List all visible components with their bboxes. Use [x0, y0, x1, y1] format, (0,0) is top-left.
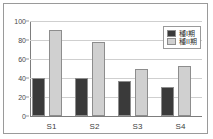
y-axis-tick-mark [26, 116, 29, 117]
y-axis-tick-label: 100 [14, 18, 26, 25]
x-axis-category-label: S3 [116, 123, 159, 131]
bar-series-2[interactable] [49, 30, 62, 116]
bar-series-2[interactable] [92, 42, 105, 116]
x-axis-category-label: S4 [159, 123, 202, 131]
y-axis-tick-mark [26, 78, 29, 79]
y-axis-tick-mark [26, 97, 29, 98]
y-axis-tick-mark [26, 40, 29, 41]
bar-group: S2 [73, 21, 116, 116]
legend-swatch-icon [167, 30, 176, 37]
y-axis-tick-mark [26, 59, 29, 60]
legend-item[interactable]: 種II期 [167, 38, 197, 45]
legend-item[interactable]: 種I期 [167, 30, 197, 37]
bar-series-2[interactable] [135, 69, 148, 116]
bar-series-1[interactable] [161, 87, 174, 116]
bar-group: S1 [30, 21, 73, 116]
y-axis-tick-label: 80 [18, 37, 26, 44]
legend-swatch-icon [167, 38, 176, 45]
chart-legend[interactable]: 種I期種II期 [163, 26, 201, 49]
legend-label: 種II期 [179, 38, 197, 45]
y-axis-tick-mark [26, 21, 29, 22]
y-axis-tick-label: 60 [18, 56, 26, 63]
x-axis-category-label: S1 [30, 123, 73, 131]
legend-label: 種I期 [179, 30, 195, 37]
x-axis-line [30, 116, 202, 117]
y-axis-tick-label: 0 [22, 113, 26, 120]
y-axis-tick-label: 20 [18, 94, 26, 101]
bar-series-1[interactable] [118, 81, 131, 116]
bar-group: S3 [116, 21, 159, 116]
y-axis-tick-label: 40 [18, 75, 26, 82]
chart-frame: 020406080100 S1S2S3S4 種I期種II期 [3, 3, 208, 134]
bar-series-1[interactable] [75, 78, 88, 116]
bar-series-1[interactable] [32, 78, 45, 116]
x-axis-category-label: S2 [73, 123, 116, 131]
bar-series-2[interactable] [178, 66, 191, 116]
